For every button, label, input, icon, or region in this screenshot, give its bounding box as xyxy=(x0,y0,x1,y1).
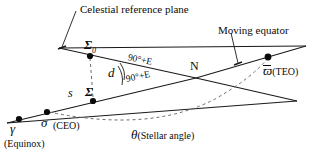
point-ceo-caption: (CEO) xyxy=(53,121,80,131)
point-equinox-marker xyxy=(16,116,22,122)
point-ceo-symbol: σ xyxy=(41,116,47,129)
teo-symbol-wrap: ϖ xyxy=(263,64,272,77)
angle-arc-lower xyxy=(118,66,123,85)
astronomical-diagram: Celestial reference plane Moving equator… xyxy=(0,0,320,158)
sigma-zero-subscript: 0 xyxy=(92,46,96,55)
sigma-zero-symbol: Σ xyxy=(84,37,92,52)
stellar-angle-dashed-arc xyxy=(49,58,268,120)
point-sigma-label: Σ xyxy=(85,83,93,99)
celestial-reference-plane-leader xyxy=(62,11,76,47)
point-equinox-caption: (Equinox) xyxy=(4,139,45,149)
stellar-angle-label: θ(Stellar angle) xyxy=(131,126,194,142)
sigma-symbol: Σ xyxy=(85,84,93,99)
node-point-label: N xyxy=(190,60,199,72)
point-equinox-symbol: γ xyxy=(10,122,15,135)
arc-s-label: s xyxy=(68,87,73,99)
teo-overbar xyxy=(263,65,271,66)
arc-distance-label: d xyxy=(108,66,115,79)
teo-caption: (TEO) xyxy=(272,66,298,77)
celestial-reference-plane-label: Celestial reference plane xyxy=(80,4,189,15)
point-sigma-zero-label: Σ0 xyxy=(84,36,96,55)
stellar-angle-caption: (Stellar angle) xyxy=(137,130,194,141)
moving-equator-right-segment xyxy=(196,78,297,101)
point-teo-label: ϖ(TEO) xyxy=(263,62,298,78)
moving-equator-label: Moving equator xyxy=(218,25,289,36)
point-teo-marker xyxy=(265,54,272,61)
moving-equator-leader xyxy=(231,33,238,63)
